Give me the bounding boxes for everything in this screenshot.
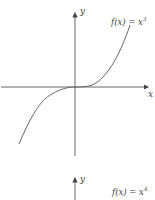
function-label-cubic: f(x) = x3 xyxy=(110,16,147,27)
y-axis-label: y xyxy=(79,6,86,16)
function-label-quartic: f(x) = x4 xyxy=(111,186,148,197)
plots-canvas: y x f(x) = x3 y f(x) = x4 xyxy=(0,0,155,200)
graph-cubic: y x f(x) = x3 xyxy=(1,6,153,156)
x-axis-label: x xyxy=(148,89,153,99)
graph-quartic: y f(x) = x4 xyxy=(75,174,148,200)
cubic-curve xyxy=(19,25,130,144)
y-axis-label-2: y xyxy=(79,174,86,184)
